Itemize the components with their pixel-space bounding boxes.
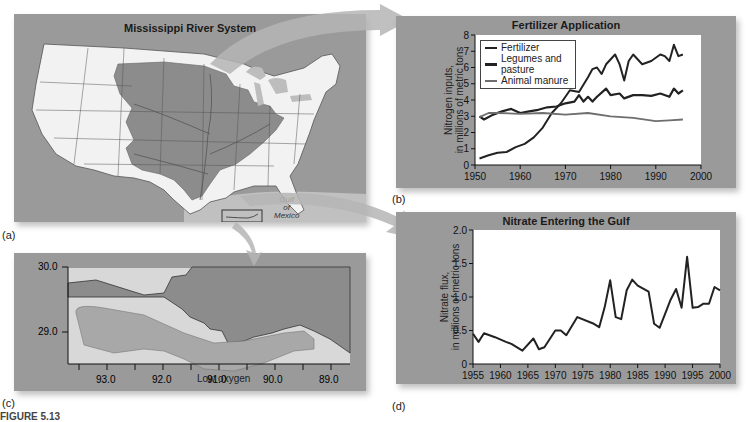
panel-d-nitrate-chart: Nitrate Entering the Gulf 00.51.01.52.01… (396, 212, 736, 384)
y-tick-label: 0 (463, 160, 469, 171)
x-tick-label: 1970 (554, 171, 577, 182)
x-tick-label: 1985 (627, 370, 650, 381)
x-tick-90: 90.0 (263, 374, 282, 385)
x-tick-label: 1950 (464, 171, 487, 182)
x-tick-label: 1975 (572, 370, 595, 381)
hypoxia-zone-map (14, 253, 366, 391)
x-tick-label: 1980 (599, 370, 622, 381)
legend-fertilizer: Fertilizer (485, 42, 571, 53)
x-tick-93: 93.0 (96, 374, 115, 385)
x-tick-92: 92.0 (152, 374, 171, 385)
gulf-of-mexico-label: Gulf of Mexico (274, 196, 299, 220)
legend-manure: Animal manure (485, 75, 571, 86)
figure-caption: FIGURE 5.13 (0, 411, 60, 422)
panel-b-fertilizer-chart: Fertilizer Application 01234567819501960… (396, 16, 736, 188)
y-tick-label: 8 (463, 30, 469, 41)
x-tick-label: 2000 (690, 171, 713, 182)
panel-a-label: (a) (2, 229, 15, 241)
y-axis-label: Nitrate flux,in millions of metric tons (439, 244, 461, 351)
svg-text:Nitrate flux,: Nitrate flux, (439, 272, 450, 323)
x-tick-label: 1955 (462, 370, 485, 381)
panel-c-label: (c) (2, 397, 15, 409)
us-map-illustration (14, 14, 366, 222)
panel-b-label: (b) (392, 193, 405, 205)
x-tick-91: 91.0 (207, 374, 226, 385)
x-tick-label: 1995 (681, 370, 704, 381)
svg-text:Nitrogen inputs,: Nitrogen inputs, (443, 65, 454, 135)
y-tick-29: 29.0 (38, 326, 57, 337)
x-tick-label: 2000 (709, 370, 732, 381)
x-tick-label: 1965 (517, 370, 540, 381)
x-tick-label: 1980 (599, 171, 622, 182)
x-tick-label: 1970 (544, 370, 567, 381)
svg-text:in millions of metric tons: in millions of metric tons (454, 47, 465, 154)
x-tick-label: 1960 (509, 171, 532, 182)
y-tick-label: 2.0 (453, 225, 467, 236)
x-tick-label: 1990 (654, 370, 677, 381)
x-tick-label: 1960 (489, 370, 512, 381)
chart-b-legend: Fertilizer Legumes and pasture Animal ma… (480, 40, 576, 89)
nitrate-line-chart: 00.51.01.52.0195519601965197019751980198… (396, 212, 736, 384)
x-tick-label: 1990 (645, 171, 668, 182)
y-tick-label: 0 (461, 359, 467, 370)
x-tick-89: 89.0 (319, 374, 338, 385)
panel-c-hypoxia-map: Low oxygen 30.0 29.0 93.0 92.0 91.0 90.0… (14, 253, 366, 391)
legend-legumes: Legumes and pasture (485, 53, 571, 75)
svg-text:in millions of metric tons: in millions of metric tons (450, 244, 461, 351)
panel-d-label: (d) (392, 400, 405, 412)
y-axis-label: Nitrogen inputs,in millions of metric to… (443, 47, 465, 154)
panel-a-map: Mississippi River System (14, 14, 366, 222)
y-tick-30: 30.0 (38, 261, 57, 272)
